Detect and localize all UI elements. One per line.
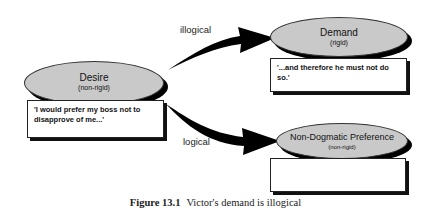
figure-label: Figure 13.1	[130, 197, 181, 208]
logical-label: logical	[183, 136, 210, 147]
preference-ellipse: Non-Dogmatic Preference (non-rigid)	[276, 123, 408, 159]
demand-ellipse: Demand (rigid)	[270, 17, 408, 57]
preference-quote-box	[270, 158, 406, 192]
demand-subtitle: (rigid)	[271, 38, 407, 47]
figure-caption-text: Victor's demand is illogical	[186, 197, 301, 208]
desire-ellipse: Desire (non-rigid)	[24, 61, 164, 105]
preference-subtitle: (non-rigid)	[277, 143, 407, 151]
figure-caption: Figure 13.1Victor's demand is illogical	[0, 197, 431, 208]
illogical-label: illogical	[180, 24, 211, 35]
demand-title: Demand	[271, 27, 407, 38]
desire-quote-box: 'I would prefer my boss not to disapprov…	[27, 100, 164, 138]
demand-quote-box: '...and therefore he must not do so.'	[270, 58, 407, 92]
logical-arrow	[166, 104, 280, 155]
desire-subtitle: (non-rigid)	[25, 83, 163, 92]
desire-title: Desire	[25, 72, 163, 83]
preference-title: Non-Dogmatic Preference	[277, 132, 407, 143]
